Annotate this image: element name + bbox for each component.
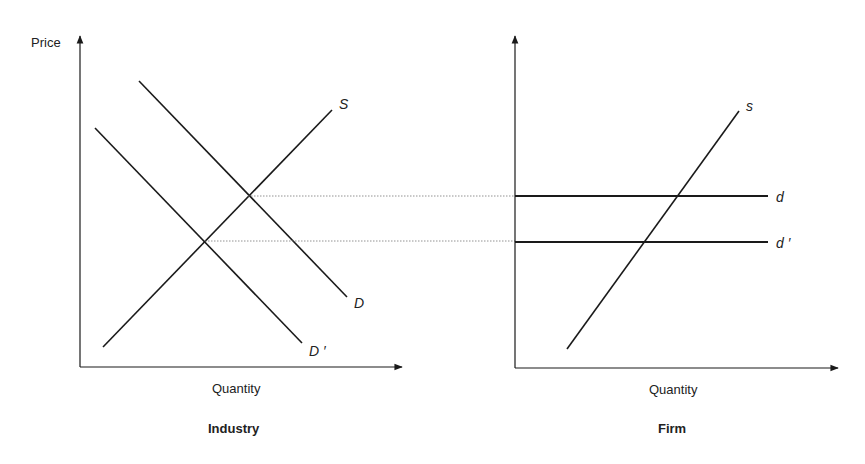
industry-y-axis-label: Price: [31, 35, 61, 50]
label-D: D: [354, 295, 364, 311]
firm-x-axis-label: Quantity: [649, 382, 698, 397]
demand-curve-D: [139, 81, 347, 297]
label-s: s: [746, 98, 753, 114]
industry-x-axis-label: Quantity: [212, 381, 261, 396]
firm-panel: Quantity Firm s d d ′: [515, 36, 838, 436]
supply-curve-S: [103, 110, 332, 347]
firm-title: Firm: [658, 421, 686, 436]
label-S: S: [339, 96, 349, 112]
industry-title: Industry: [208, 421, 260, 436]
label-d: d: [776, 189, 785, 205]
firm-supply-curve-s: [567, 111, 739, 349]
price-connectors: [205, 196, 515, 241]
label-d-prime: d ′: [776, 235, 792, 251]
industry-firm-diagram: Price Quantity Industry S D D ′ Quantity…: [0, 0, 865, 464]
demand-curve-D-prime: [95, 128, 302, 343]
industry-panel: Price Quantity Industry S D D ′: [31, 35, 402, 436]
label-D-prime: D ′: [309, 343, 327, 359]
